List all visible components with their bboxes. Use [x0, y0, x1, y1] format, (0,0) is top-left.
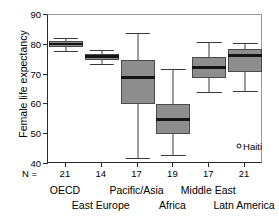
box-iqr — [228, 49, 262, 71]
x-axis-tick — [172, 163, 173, 167]
plot-area: Haiti — [47, 14, 262, 163]
cap-lower — [125, 158, 149, 159]
whisker-lower — [245, 72, 246, 91]
median-line — [49, 43, 83, 46]
y-axis-tick-label: 60 — [30, 98, 41, 109]
median-line — [192, 66, 226, 69]
chart-figure: Female life expectancy 405060708090 Hait… — [0, 0, 279, 219]
whisker-lower — [173, 134, 174, 155]
median-line — [228, 54, 262, 57]
y-axis-tick-label: 80 — [30, 38, 41, 49]
cap-lower — [161, 155, 185, 156]
cap-lower — [233, 91, 257, 92]
median-line — [85, 55, 119, 58]
boxplot-east-europe — [85, 15, 119, 164]
cap-upper — [161, 69, 185, 70]
box-iqr — [121, 60, 155, 105]
whisker-upper — [137, 33, 138, 60]
cap-lower — [54, 51, 78, 52]
boxplot-middle-east — [192, 15, 226, 164]
y-axis-tick-label: 50 — [30, 128, 41, 139]
y-axis-title: Female life expectancy — [17, 9, 29, 159]
boxplot-africa — [156, 15, 190, 164]
y-axis-tick — [43, 163, 48, 164]
y-axis-tick-label: 40 — [30, 158, 41, 169]
median-line — [121, 76, 155, 79]
x-axis-tick — [244, 163, 245, 167]
n-count-5: 17 — [203, 168, 214, 179]
y-axis-tick-label: 90 — [30, 9, 41, 20]
cap-upper — [125, 33, 149, 34]
n-count-4: 19 — [167, 168, 178, 179]
outlier-label-haiti: Haiti — [243, 141, 262, 152]
whisker-upper — [173, 69, 174, 105]
whisker-upper — [209, 42, 210, 57]
x-axis-tick — [101, 163, 102, 167]
cap-lower — [90, 64, 114, 65]
n-count-6: 21 — [239, 168, 250, 179]
cap-lower — [197, 92, 221, 93]
x-axis-group-label-east-europe: East Europe — [72, 199, 130, 211]
x-axis-group-label-middle-east: Middle East — [181, 184, 236, 196]
whisker-lower — [137, 104, 138, 158]
cap-upper — [233, 43, 257, 44]
n-count-2: 14 — [95, 168, 106, 179]
n-count-1: 21 — [60, 168, 71, 179]
x-axis-tick — [65, 163, 66, 167]
x-axis-group-label-pacific-asia: Pacific/Asia — [109, 184, 163, 196]
n-row-prefix: N = — [22, 168, 37, 179]
cap-upper — [197, 42, 221, 43]
n-count-3: 17 — [131, 168, 142, 179]
whisker-lower — [209, 78, 210, 93]
cap-upper — [90, 50, 114, 51]
x-axis-tick — [208, 163, 209, 167]
x-axis-group-label-latn-america: Latn America — [213, 199, 274, 211]
x-axis-group-label-africa: Africa — [159, 199, 186, 211]
boxplot-pacific-asia — [121, 15, 155, 164]
cap-upper — [54, 38, 78, 39]
x-axis-group-label-oecd: OECD — [50, 184, 80, 196]
y-axis-tick-label: 70 — [30, 68, 41, 79]
outlier-marker — [237, 144, 242, 149]
x-axis-tick — [137, 163, 138, 167]
median-line — [156, 118, 190, 121]
boxplot-oecd — [49, 15, 83, 164]
